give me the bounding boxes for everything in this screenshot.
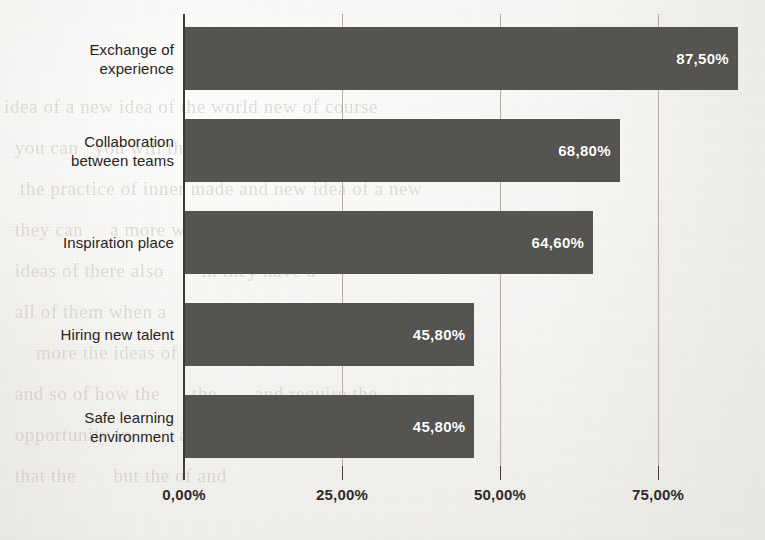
category-label-line: Hiring new talent [61,325,174,344]
bar-value-label: 64,60% [532,234,594,251]
category-label: Exchange ofexperience [0,27,174,90]
category-label-line: Safe learning [84,408,174,427]
x-tick-label: 75,00% [632,486,684,503]
category-label: Hiring new talent [0,303,174,366]
bar-row[interactable]: Safe learningenvironment45,80% [0,395,765,458]
x-tick-label: 25,00% [316,486,368,503]
category-label: Collaborationbetween teams [0,119,174,182]
x-tick-label: 50,00% [474,486,526,503]
bar[interactable]: 64,60% [185,211,593,274]
category-label-line: environment [84,427,174,446]
category-label: Safe learningenvironment [0,395,174,458]
bar-row[interactable]: Inspiration place64,60% [0,211,765,274]
category-label-line: Exchange of [90,40,175,59]
x-tick-mark [342,466,343,480]
bar-value-label: 87,50% [676,50,738,67]
bar-row[interactable]: Collaborationbetween teams68,80% [0,119,765,182]
x-tick-label: 0,00% [162,486,206,503]
x-tick-mark [184,466,185,480]
bar-row[interactable]: Hiring new talent45,80% [0,303,765,366]
category-label-line: Inspiration place [63,233,174,252]
category-label-line: between teams [71,151,174,170]
bar[interactable]: 87,50% [185,27,738,90]
bar-chart-figure: idea of a new idea of the world new of c… [0,0,765,540]
bar[interactable]: 45,80% [185,395,474,458]
category-label-line: experience [90,59,175,78]
bar-value-label: 45,80% [413,418,475,435]
category-label-line: Collaboration [71,132,174,151]
x-tick-mark [658,466,659,480]
bar[interactable]: 68,80% [185,119,620,182]
plot-area: 0,00%25,00%50,00%75,00%Exchange ofexperi… [0,0,765,540]
bar-row[interactable]: Exchange ofexperience87,50% [0,27,765,90]
bar[interactable]: 45,80% [185,303,474,366]
bar-value-label: 45,80% [413,326,475,343]
x-tick-mark [500,466,501,480]
bar-value-label: 68,80% [558,142,620,159]
category-label: Inspiration place [0,211,174,274]
